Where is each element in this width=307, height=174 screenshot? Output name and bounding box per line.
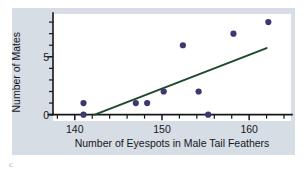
- x-axis-tick-label: 140: [66, 124, 84, 135]
- trend-line-group: [95, 48, 267, 115]
- data-point: [205, 112, 211, 118]
- data-points-group: [80, 19, 271, 118]
- corner-mark: c: [9, 160, 13, 169]
- y-axis-tick-label: 5: [43, 52, 49, 63]
- x-axis-tick-label: 150: [153, 124, 171, 135]
- trend-line: [95, 48, 267, 115]
- data-point: [144, 100, 150, 106]
- data-point: [180, 42, 186, 48]
- data-point: [80, 112, 86, 118]
- data-point: [80, 100, 86, 106]
- data-point: [161, 88, 167, 94]
- x-axis-tick-label: 160: [240, 124, 258, 135]
- data-point: [265, 19, 271, 25]
- y-axis-title: Number of Mates: [11, 17, 22, 127]
- data-point: [133, 100, 139, 106]
- scatter-plot-figure: 140150160 05 Number of Eyespots in Male …: [0, 0, 307, 174]
- y-axis-tick-label: 0: [43, 109, 49, 120]
- x-axis-title: Number of Eyespots in Male Tail Feathers: [53, 138, 291, 149]
- data-point: [230, 31, 236, 37]
- data-point: [195, 88, 201, 94]
